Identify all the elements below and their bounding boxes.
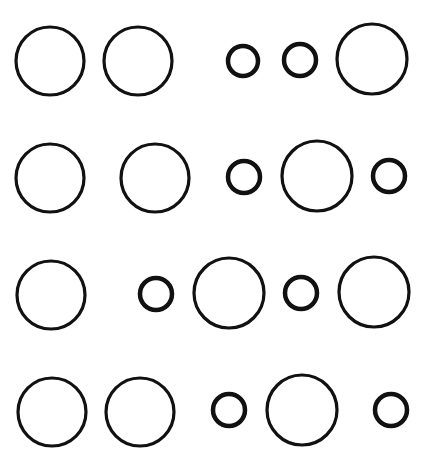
- small-circle-icon: [284, 44, 316, 76]
- large-circle-icon: [337, 24, 407, 94]
- large-circle-icon: [339, 257, 409, 327]
- large-circle-icon: [121, 144, 189, 212]
- large-circle-icon: [18, 378, 86, 446]
- large-circle-icon: [16, 144, 84, 212]
- small-circle-icon: [228, 161, 260, 193]
- small-circle-icon: [285, 277, 317, 309]
- large-circle-icon: [104, 27, 172, 95]
- large-circle-icon: [194, 258, 264, 328]
- small-circle-icon: [140, 278, 172, 310]
- small-circle-icon: [228, 46, 258, 76]
- large-circle-icon: [17, 261, 85, 329]
- circles-figure: [0, 0, 426, 465]
- small-circle-icon: [373, 160, 405, 192]
- small-circle-icon: [213, 394, 245, 426]
- large-circle-icon: [106, 378, 174, 446]
- small-circle-icon: [375, 394, 407, 426]
- large-circle-icon: [16, 27, 84, 95]
- large-circle-icon: [282, 141, 352, 211]
- large-circle-icon: [267, 375, 337, 445]
